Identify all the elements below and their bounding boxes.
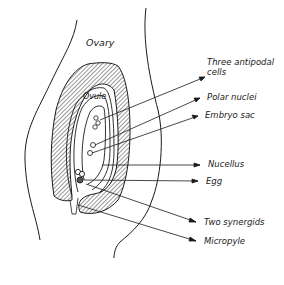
antipodal-cell — [94, 116, 98, 120]
synergid — [79, 171, 84, 176]
outer-integument — [51, 63, 130, 214]
label-nucellus: Nucellus — [208, 160, 244, 169]
antipodal-cell — [93, 125, 97, 129]
antipodal-cell — [96, 121, 100, 125]
label-polar-nuclei: Polar nuclei — [207, 93, 257, 102]
label-ovule: Ovule — [83, 92, 106, 101]
label-micropyle: Micropyle — [204, 237, 245, 246]
label-ovary: Ovary — [86, 38, 114, 47]
polar-nucleus — [88, 151, 93, 156]
label-two-synergids: Two synergids — [204, 218, 265, 227]
egg-cell — [77, 177, 83, 183]
label-three-antipodal-cells-line2: cells — [207, 68, 226, 77]
label-three-antipodal-cells: Three antipodal — [207, 58, 274, 67]
label-embryo-sac: Embryo sac — [205, 111, 255, 120]
ovule-diagram: Ovary Ovule Three antipodal cells Polar … — [0, 0, 284, 285]
label-egg: Egg — [206, 177, 222, 186]
polar-nucleus — [91, 143, 96, 148]
